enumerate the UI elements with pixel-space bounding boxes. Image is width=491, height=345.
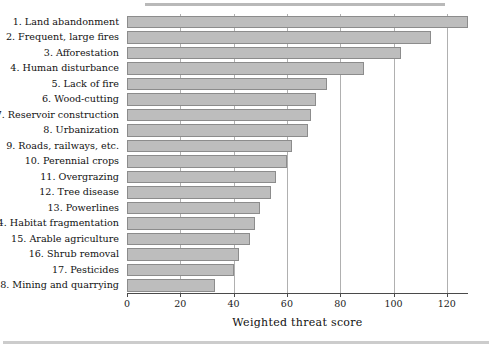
- bar: [127, 47, 401, 60]
- category-labels-column: 1. Land abandonment2. Frequent, large fi…: [0, 0, 123, 345]
- bar: [127, 62, 364, 75]
- bar-row: [127, 47, 468, 60]
- category-label: 6. Wood-cutting: [42, 94, 119, 104]
- x-tick-0: [127, 293, 128, 297]
- category-label: 10. Perennial crops: [25, 156, 119, 166]
- bar-row: [127, 264, 468, 277]
- category-label: 14. Habitat fragmentation: [0, 218, 119, 228]
- x-axis-line: [127, 293, 468, 294]
- x-tick-label: 20: [174, 298, 186, 309]
- x-tick-80: [340, 293, 341, 297]
- bar: [127, 78, 327, 91]
- category-label: 18. Mining and quarrying: [0, 280, 119, 290]
- bar: [127, 186, 271, 199]
- category-label: 11. Overgrazing: [40, 172, 119, 182]
- bar-row: [127, 62, 468, 75]
- bar-row: [127, 171, 468, 184]
- bar: [127, 31, 431, 44]
- category-label: 3. Afforestation: [44, 48, 119, 58]
- bar-row: [127, 279, 468, 292]
- category-label: 16. Shrub removal: [29, 249, 119, 259]
- x-tick-label: 80: [334, 298, 346, 309]
- bar: [127, 233, 250, 246]
- bar: [127, 248, 239, 261]
- chart-figure: 1. Land abandonment2. Frequent, large fi…: [0, 0, 491, 345]
- bar-row: [127, 93, 468, 106]
- category-label: 17. Pesticides: [52, 265, 119, 275]
- bar-row: [127, 248, 468, 261]
- x-tick-label: 60: [281, 298, 293, 309]
- bar: [127, 140, 292, 153]
- category-label: 1. Land abandonment: [13, 17, 119, 27]
- bar-row: [127, 16, 468, 29]
- bar: [127, 264, 234, 277]
- bar: [127, 171, 276, 184]
- bar: [127, 93, 316, 106]
- x-tick-label: 120: [438, 298, 456, 309]
- bar: [127, 109, 311, 122]
- category-label: 13. Powerlines: [47, 203, 119, 213]
- x-tick-40: [234, 293, 235, 297]
- bar-row: [127, 78, 468, 91]
- category-label: 12. Tree disease: [39, 187, 119, 197]
- category-label: 4. Human disturbance: [10, 63, 119, 73]
- bar: [127, 16, 468, 29]
- bar-row: [127, 124, 468, 137]
- x-tick-label: 40: [228, 298, 240, 309]
- top-divider-rule: [145, 3, 445, 6]
- x-tick-label: 0: [124, 298, 130, 309]
- category-label: 7. Reservoir construction: [0, 110, 119, 120]
- category-label: 2. Frequent, large fires: [6, 32, 119, 42]
- bar: [127, 279, 215, 292]
- bar-row: [127, 155, 468, 168]
- bar-row: [127, 202, 468, 215]
- x-axis-label: Weighted threat score: [127, 316, 468, 329]
- x-tick-label: 100: [384, 298, 402, 309]
- bars-container: [127, 14, 468, 293]
- x-tick-60: [287, 293, 288, 297]
- bar-row: [127, 217, 468, 230]
- plot-area: [127, 14, 468, 293]
- category-label: 5. Lack of fire: [51, 79, 119, 89]
- bar: [127, 155, 287, 168]
- category-label: 9. Roads, railways, etc.: [6, 141, 119, 151]
- x-tick-120: [447, 293, 448, 297]
- bar-row: [127, 186, 468, 199]
- bar-row: [127, 109, 468, 122]
- bar-row: [127, 233, 468, 246]
- bar: [127, 217, 255, 230]
- category-label: 15. Arable agriculture: [11, 234, 119, 244]
- x-tick-100: [394, 293, 395, 297]
- bar: [127, 202, 260, 215]
- bar-row: [127, 140, 468, 153]
- x-tick-20: [180, 293, 181, 297]
- bar: [127, 124, 308, 137]
- bar-row: [127, 31, 468, 44]
- category-label: 8. Urbanization: [43, 125, 119, 135]
